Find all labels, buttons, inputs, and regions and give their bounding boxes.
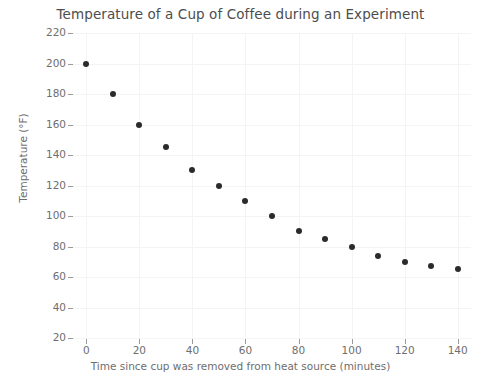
y-axis-tick (68, 247, 73, 248)
gridline-horizontal (73, 247, 471, 248)
y-axis-tick (68, 186, 73, 187)
y-axis-tick-label: 80 (24, 240, 66, 252)
data-point (110, 91, 116, 97)
y-axis-tick-label: 40 (24, 301, 66, 313)
chart-figure: Temperature of a Cup of Coffee during an… (0, 0, 481, 386)
gridline-horizontal (73, 186, 471, 187)
data-point (83, 61, 89, 67)
y-axis-tick-label: 220 (24, 26, 66, 38)
y-axis-tick-label: 60 (24, 270, 66, 282)
x-axis-tick-label: 140 (438, 344, 478, 356)
data-point (269, 213, 275, 219)
gridline-horizontal (73, 338, 471, 339)
x-axis-tick-label: 0 (66, 344, 106, 356)
y-axis-tick-label: 100 (24, 209, 66, 221)
y-axis-tick-label: 160 (24, 118, 66, 130)
y-axis-tick (68, 216, 73, 217)
chart-title: Temperature of a Cup of Coffee during an… (0, 6, 481, 22)
data-point (296, 228, 302, 234)
gridline-horizontal (73, 155, 471, 156)
gridline-horizontal (73, 64, 471, 65)
y-axis-tick (68, 308, 73, 309)
y-axis-tick (68, 277, 73, 278)
y-axis-tick (68, 125, 73, 126)
data-point (349, 244, 355, 250)
y-axis-tick (68, 155, 73, 156)
data-point (136, 122, 142, 128)
plot-area (73, 33, 471, 338)
gridline-horizontal (73, 94, 471, 95)
y-axis-tick (68, 338, 73, 339)
data-point (322, 236, 328, 242)
x-axis-tick-label: 20 (119, 344, 159, 356)
gridline-horizontal (73, 308, 471, 309)
x-axis-tick-label: 40 (172, 344, 212, 356)
y-axis-tick-label: 120 (24, 179, 66, 191)
gridline-horizontal (73, 33, 471, 34)
y-axis-tick-label: 20 (24, 331, 66, 343)
y-axis-tick-label: 200 (24, 57, 66, 69)
y-axis-tick (68, 94, 73, 95)
x-axis-tick-label: 120 (385, 344, 425, 356)
x-axis-tick-label: 60 (225, 344, 265, 356)
y-axis-tick (68, 33, 73, 34)
y-axis-tick (68, 64, 73, 65)
y-axis-tick-label: 140 (24, 148, 66, 160)
x-axis-tick-label: 100 (332, 344, 372, 356)
y-axis-tick-label: 180 (24, 87, 66, 99)
x-axis-label: Time since cup was removed from heat sou… (0, 360, 481, 372)
data-point (375, 253, 381, 259)
x-axis-tick-label: 80 (279, 344, 319, 356)
data-point (402, 259, 408, 265)
data-point (216, 183, 222, 189)
gridline-horizontal (73, 277, 471, 278)
gridline-horizontal (73, 125, 471, 126)
